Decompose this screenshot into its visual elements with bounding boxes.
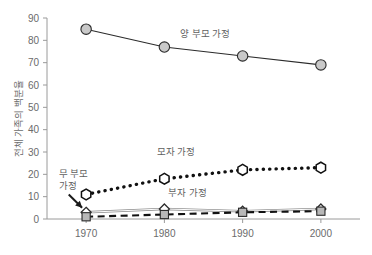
y-axis-title: 전체 가족의 백분율: [13, 80, 24, 157]
data-point-marker: [82, 213, 90, 221]
data-point-marker: [317, 207, 325, 215]
annotation-label-line2: 가정: [59, 180, 77, 191]
marker-square: [82, 213, 90, 221]
data-point-marker: [81, 24, 91, 34]
chart-container: 0102030405060708090 1970198019902000 무 부…: [0, 0, 372, 255]
marker-hexagon: [160, 173, 169, 184]
x-tick-label: 1970: [75, 228, 98, 239]
data-point-marker: [160, 210, 168, 218]
series-label-0: 양 부모 가정: [180, 28, 230, 39]
y-tick-label: 0: [33, 214, 39, 225]
y-tick-label: 50: [28, 102, 40, 113]
marker-hexagon: [316, 162, 325, 173]
data-point-marker: [81, 189, 90, 200]
marker-circle: [159, 42, 169, 52]
y-tick-label: 70: [28, 57, 40, 68]
marker-circle: [237, 51, 247, 61]
y-tick-label: 30: [28, 147, 40, 158]
marker-circle: [316, 60, 326, 70]
marker-square: [317, 207, 325, 215]
marker-hexagon: [81, 189, 90, 200]
annotation-label-line1: 무 부모: [59, 168, 89, 179]
x-tick-label: 2000: [310, 228, 333, 239]
series-label-2: 부자 가정: [168, 187, 207, 198]
data-point-marker: [238, 164, 247, 175]
marker-square: [239, 208, 247, 216]
data-point-marker: [159, 42, 169, 52]
data-point-marker: [239, 208, 247, 216]
y-tick-label: 60: [28, 80, 40, 91]
y-axis-title-group: 전체 가족의 백분율: [13, 80, 24, 157]
marker-circle: [81, 24, 91, 34]
y-tick-label: 80: [28, 35, 40, 46]
data-point-marker: [316, 162, 325, 173]
marker-square: [160, 210, 168, 218]
x-tick-label: 1990: [232, 228, 255, 239]
data-point-marker: [237, 51, 247, 61]
data-point-marker: [160, 173, 169, 184]
y-tick-label: 40: [28, 124, 40, 135]
y-tick-label: 10: [28, 191, 40, 202]
marker-hexagon: [238, 164, 247, 175]
data-point-marker: [316, 60, 326, 70]
line-chart: 0102030405060708090 1970198019902000 무 부…: [0, 0, 372, 255]
series-label-1: 모자 가정: [157, 146, 196, 157]
y-tick-label: 90: [28, 13, 40, 24]
y-tick-label: 20: [28, 169, 40, 180]
x-tick-label: 1980: [153, 228, 176, 239]
